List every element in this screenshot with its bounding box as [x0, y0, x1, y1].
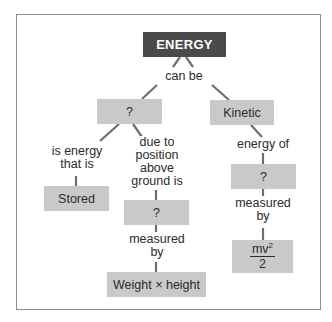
node-stored: Stored [44, 186, 109, 211]
node-kinetic: Kinetic [210, 100, 274, 125]
node-unknown-middle: ? [124, 200, 189, 225]
link-label-measured-by-left: measured by [126, 233, 188, 259]
label-line: by [126, 246, 188, 259]
fraction-numerator: mv2 [250, 243, 275, 257]
label-line: ground is [126, 175, 188, 188]
link-label-can-be: can be [160, 70, 208, 83]
node-unknown-right: ? [231, 164, 296, 189]
node-weight-times-height: Weight × height [107, 272, 206, 297]
node-unknown-potential: ? [97, 99, 162, 124]
node-energy: ENERGY [143, 32, 226, 57]
link-label-due-to-position: due to position above ground is [126, 136, 188, 188]
label-line: that is [46, 158, 108, 171]
link-label-measured-by-right: measured by [232, 197, 294, 223]
fraction-mv2-over-2: mv2 2 [250, 243, 275, 270]
node-kinetic-formula: mv2 2 [232, 240, 293, 273]
fraction-denominator: 2 [259, 257, 266, 270]
link-label-energy-of: energy of [232, 138, 294, 151]
label-line: by [232, 210, 294, 223]
link-label-is-energy-that-is: is energy that is [46, 145, 108, 171]
